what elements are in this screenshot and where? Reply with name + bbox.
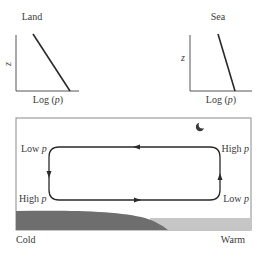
land-title: Land <box>22 11 43 22</box>
land-x-label: Log (p) <box>33 94 63 106</box>
sea-x-label: Log (p) <box>206 94 236 106</box>
sea-y-label: z <box>180 52 185 63</box>
sea-title: Sea <box>211 11 226 22</box>
label-low-p-bottom-right: Low p <box>223 193 249 204</box>
label-low-p-top-left: Low p <box>21 143 47 154</box>
sea-lapse-line <box>218 34 235 91</box>
label-high-p-top-right: High p <box>222 143 250 154</box>
sea-panel: Sea z Log (p) <box>180 11 252 106</box>
land-y-label: z <box>2 62 13 67</box>
land-lapse-line <box>33 34 70 91</box>
circulation-panel: Low p High p High p Low p <box>16 118 251 230</box>
label-warm: Warm <box>221 234 245 245</box>
label-cold: Cold <box>16 234 35 245</box>
label-high-p-bottom-left: High p <box>19 193 47 204</box>
sea-breeze-diagram: Land z Log (p) Sea z Log (p) <box>0 0 263 256</box>
land-panel: Land z Log (p) <box>2 11 79 106</box>
